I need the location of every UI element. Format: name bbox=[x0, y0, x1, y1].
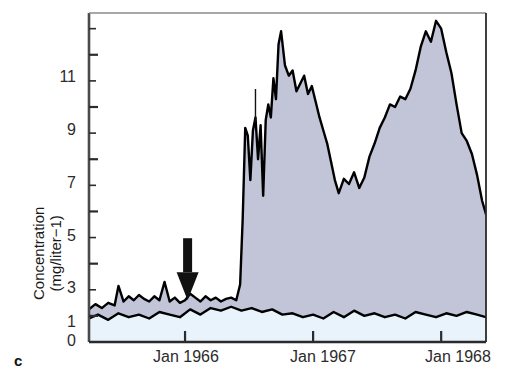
plot-area bbox=[0, 0, 508, 388]
figure-panel-c: Concentration (mg/liter−1) c 11 9 7 5 3 … bbox=[0, 0, 508, 388]
